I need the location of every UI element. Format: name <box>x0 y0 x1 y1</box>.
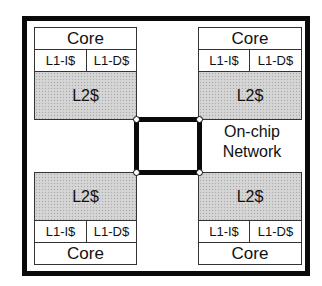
network-label: On-chip Network <box>212 122 292 162</box>
network-node-icon <box>197 170 203 176</box>
network-node-icon <box>197 117 203 123</box>
network-label-line2: Network <box>212 142 292 162</box>
network-label-line1: On-chip <box>212 122 292 142</box>
network-node-icon <box>134 170 140 176</box>
network-node-icon <box>134 117 140 123</box>
